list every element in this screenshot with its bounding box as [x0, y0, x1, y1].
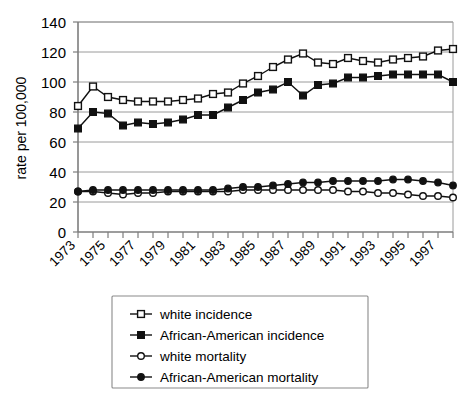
marker-filled-circle: [180, 187, 187, 194]
marker-open-square: [180, 97, 187, 104]
marker-open-square: [138, 311, 145, 318]
marker-filled-square: [255, 89, 262, 96]
marker-filled-circle: [435, 179, 442, 186]
marker-open-square: [435, 47, 442, 54]
y-tick-label: 60: [49, 134, 66, 151]
marker-open-square: [315, 59, 322, 66]
marker-filled-circle: [375, 178, 382, 185]
marker-open-square: [210, 91, 217, 98]
marker-open-circle: [300, 187, 307, 194]
marker-open-square: [420, 53, 427, 60]
marker-open-circle: [330, 187, 337, 194]
marker-open-circle: [138, 353, 145, 360]
marker-open-square: [405, 55, 412, 62]
marker-filled-square: [405, 71, 412, 78]
marker-open-circle: [390, 190, 397, 197]
marker-open-square: [300, 50, 307, 57]
marker-filled-square: [300, 92, 307, 99]
marker-filled-square: [165, 119, 172, 126]
marker-filled-square: [390, 71, 397, 78]
marker-filled-circle: [105, 187, 112, 194]
marker-filled-square: [195, 112, 202, 119]
y-tick-label: 100: [41, 74, 66, 91]
marker-open-square: [390, 56, 397, 63]
marker-open-square: [195, 95, 202, 102]
marker-open-circle: [375, 190, 382, 197]
marker-filled-circle: [300, 179, 307, 186]
marker-filled-circle: [420, 178, 427, 185]
marker-filled-square: [120, 122, 127, 129]
marker-open-square: [75, 103, 82, 110]
marker-open-square: [270, 64, 277, 71]
y-tick-label: 40: [49, 164, 66, 181]
legend-label: white incidence: [159, 307, 252, 322]
y-tick-label: 120: [41, 44, 66, 61]
marker-filled-circle: [195, 187, 202, 194]
marker-open-square: [360, 58, 367, 65]
marker-filled-circle: [405, 176, 412, 183]
marker-filled-square: [315, 82, 322, 89]
marker-filled-circle: [330, 178, 337, 185]
marker-open-square: [150, 98, 157, 105]
marker-filled-circle: [75, 188, 82, 195]
marker-filled-square: [285, 79, 292, 86]
legend-label: African-American mortality: [160, 370, 319, 385]
marker-filled-square: [330, 80, 337, 87]
marker-open-square: [330, 61, 337, 68]
marker-filled-square: [210, 112, 217, 119]
marker-filled-circle: [315, 179, 322, 186]
marker-filled-square: [435, 71, 442, 78]
marker-filled-circle: [210, 187, 217, 194]
marker-open-square: [90, 83, 97, 90]
marker-open-square: [345, 55, 352, 62]
marker-filled-square: [375, 73, 382, 80]
marker-filled-circle: [90, 187, 97, 194]
marker-filled-square: [180, 116, 187, 123]
marker-filled-square: [135, 119, 142, 126]
marker-open-circle: [345, 188, 352, 195]
marker-open-square: [120, 97, 127, 104]
y-tick-label: 0: [58, 224, 66, 241]
legend-label: African-American incidence: [160, 328, 324, 343]
marker-filled-circle: [120, 187, 127, 194]
marker-filled-circle: [270, 182, 277, 189]
marker-filled-circle: [138, 374, 145, 381]
marker-open-square: [135, 98, 142, 105]
marker-filled-square: [240, 97, 247, 104]
marker-open-square: [165, 98, 172, 105]
marker-filled-square: [360, 74, 367, 81]
marker-filled-circle: [240, 184, 247, 191]
marker-open-circle: [405, 191, 412, 198]
legend-label: white mortality: [159, 349, 247, 364]
marker-open-circle: [315, 187, 322, 194]
chart-figure: 020406080100120140 197319751977197919811…: [0, 0, 468, 408]
marker-filled-circle: [165, 187, 172, 194]
marker-open-square: [225, 89, 232, 96]
marker-open-circle: [420, 193, 427, 200]
marker-open-square: [450, 46, 457, 53]
marker-filled-circle: [360, 178, 367, 185]
marker-filled-circle: [450, 182, 457, 189]
marker-open-square: [105, 94, 112, 101]
marker-filled-square: [138, 332, 145, 339]
marker-filled-square: [150, 121, 157, 128]
y-tick-label: 20: [49, 194, 66, 211]
marker-open-square: [375, 59, 382, 66]
marker-filled-square: [75, 125, 82, 132]
legend-item-1[interactable]: African-American incidence: [130, 328, 324, 343]
y-tick-label: 80: [49, 104, 66, 121]
marker-open-circle: [435, 193, 442, 200]
y-tick-label: 140: [41, 14, 66, 31]
marker-filled-circle: [285, 181, 292, 188]
marker-filled-square: [225, 104, 232, 111]
rate-per-100000-line-chart: 020406080100120140 197319751977197919811…: [0, 0, 468, 408]
marker-open-square: [255, 73, 262, 80]
marker-open-square: [240, 80, 247, 87]
marker-filled-square: [450, 79, 457, 86]
marker-filled-square: [270, 86, 277, 93]
marker-filled-square: [420, 71, 427, 78]
marker-filled-circle: [390, 176, 397, 183]
chart-legend: white incidenceAfrican-American incidenc…: [112, 296, 368, 388]
marker-filled-circle: [255, 184, 262, 191]
marker-filled-square: [105, 110, 112, 117]
